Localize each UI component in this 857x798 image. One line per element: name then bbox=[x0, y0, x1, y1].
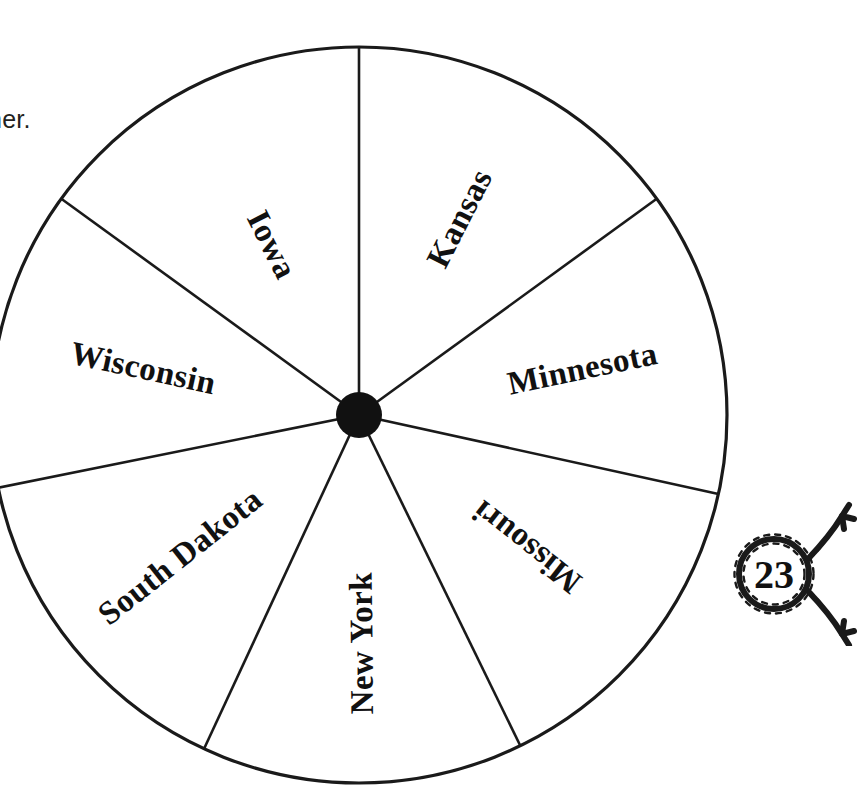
wheel-sector-label[interactable]: New York bbox=[343, 572, 380, 715]
page-number: 23 bbox=[754, 552, 794, 597]
wheel-hub[interactable] bbox=[336, 392, 382, 438]
rope-lasso-icon bbox=[735, 505, 855, 645]
page-number-badge: 23 bbox=[726, 498, 857, 646]
worksheet-page: nner. KansasIowaWisconsinSouth DakotaNew… bbox=[0, 0, 857, 798]
spinner-wheel[interactable]: KansasIowaWisconsinSouth DakotaNew YorkM… bbox=[0, 0, 857, 798]
